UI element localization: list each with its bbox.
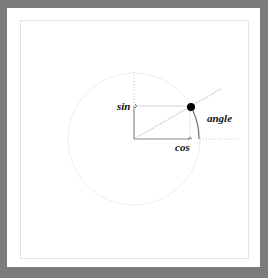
unit-circle-diagram: sin cos angle	[0, 0, 268, 278]
point-on-circle[interactable]	[187, 103, 195, 111]
cos-label: cos	[175, 141, 190, 153]
angle-label: angle	[207, 112, 232, 124]
sin-tick-marker	[135, 104, 137, 108]
sin-label: sin	[116, 100, 130, 112]
